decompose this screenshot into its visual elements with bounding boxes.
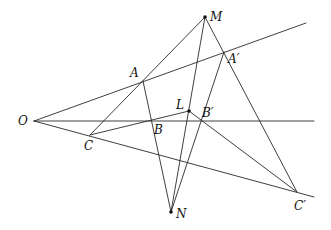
line-l-b-prime-c-prime — [189, 111, 297, 192]
label-N: N — [175, 207, 187, 221]
diagram-labels: O A B C A′ B′ C′ L M N — [18, 10, 306, 221]
desargues-diagram: O A B C A′ B′ C′ L M N — [0, 0, 331, 230]
ray-o-c-c-prime — [34, 121, 314, 197]
label-C: C — [84, 139, 93, 153]
label-O: O — [18, 114, 28, 128]
diagram-lines — [34, 17, 314, 212]
point-dot-n — [169, 210, 173, 214]
line-c-b-l — [90, 111, 189, 135]
line-a-prime-b-prime-n — [171, 52, 224, 212]
label-M: M — [209, 10, 223, 24]
label-A: A — [129, 66, 139, 80]
line-a-b-n — [143, 81, 171, 212]
point-dot-l — [187, 109, 191, 113]
label-C-prime: C′ — [294, 199, 306, 213]
label-B-prime: B′ — [201, 106, 214, 120]
ray-o-a-a-prime — [34, 23, 306, 121]
label-B: B — [153, 123, 163, 137]
label-A-prime: A′ — [227, 52, 240, 66]
point-dot-m — [203, 15, 207, 19]
label-L: L — [175, 98, 184, 112]
